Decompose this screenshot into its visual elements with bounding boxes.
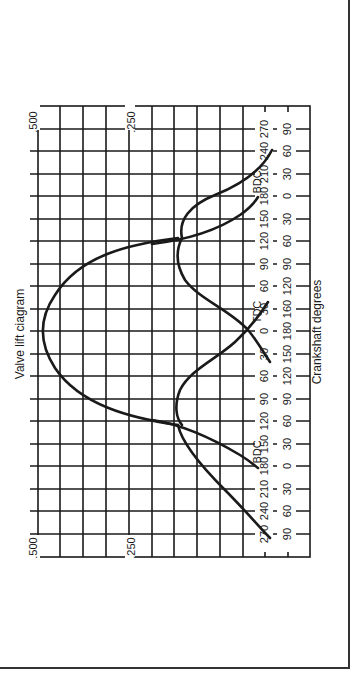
svg-text:120: 120 (258, 232, 270, 250)
x-axis-label: Crankshaft degrees (310, 280, 324, 385)
svg-text:60: 60 (281, 235, 293, 247)
svg-text:0: 0 (258, 328, 270, 334)
annotation-tdc: TDC (251, 301, 263, 324)
svg-text:90: 90 (281, 528, 293, 540)
lift-tick-500-bottom: .500 (27, 537, 39, 558)
svg-text:30: 30 (281, 438, 293, 450)
svg-text:90: 90 (281, 258, 293, 270)
svg-text:60: 60 (281, 415, 293, 427)
svg-text:60: 60 (281, 505, 293, 517)
svg-text:30: 30 (258, 348, 270, 360)
svg-text:240: 240 (258, 502, 270, 520)
svg-text:270: 270 (258, 120, 270, 138)
lift-tick-250-top: .250 (125, 111, 137, 132)
svg-text:120: 120 (281, 367, 293, 385)
svg-text:120: 120 (258, 412, 270, 430)
lift-tick-250-bottom: .250 (125, 537, 137, 558)
chart-title: Valve lift ciagram (13, 289, 27, 379)
svg-text:30: 30 (281, 213, 293, 225)
annotation-bdc-top: BDC (251, 170, 263, 193)
svg-text:30: 30 (281, 168, 293, 180)
svg-text:150: 150 (258, 210, 270, 228)
svg-text:60: 60 (258, 280, 270, 292)
svg-text:60: 60 (258, 370, 270, 382)
svg-text:210: 210 (258, 480, 270, 498)
svg-text:90: 90 (281, 393, 293, 405)
svg-text:150: 150 (281, 345, 293, 363)
svg-text:120: 120 (281, 277, 293, 295)
upper-lobe-to-bdc (152, 197, 258, 244)
svg-text:90: 90 (281, 123, 293, 135)
lift-curves (43, 150, 272, 538)
svg-text:30: 30 (281, 483, 293, 495)
svg-text:180: 180 (281, 322, 293, 340)
svg-text:160: 160 (281, 300, 293, 318)
lift-tick-500-top: .500 (27, 111, 39, 132)
svg-text:0: 0 (281, 193, 293, 199)
svg-text:90: 90 (258, 258, 270, 270)
svg-text:270: 270 (258, 525, 270, 543)
annotation-bdc-bottom: BDC (251, 440, 263, 463)
svg-text:0: 0 (281, 463, 293, 469)
valve-lift-chart: Valve lift ciagram .500 .250 .500 .250 2… (0, 0, 357, 685)
svg-text:90: 90 (258, 393, 270, 405)
svg-text:60: 60 (281, 145, 293, 157)
svg-text:240: 240 (258, 142, 270, 160)
